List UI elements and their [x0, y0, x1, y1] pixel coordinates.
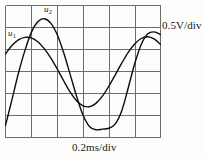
vertical-scale-label: 0.5V/div	[162, 19, 202, 31]
trace-label-u1-text: u	[8, 28, 13, 38]
trace-label-u2: u2	[44, 4, 52, 14]
trace-label-u2-subscript: 2	[49, 8, 52, 15]
graticule-grid	[6, 6, 161, 138]
horizontal-scale-label: 0.2ms/div	[72, 141, 117, 153]
trace-label-u1-subscript: 1	[13, 32, 16, 39]
trace-label-u1: u1	[8, 28, 16, 38]
trace-label-u2-text: u	[44, 4, 49, 14]
oscilloscope-screenshot: u1 u2 0.5V/div 0.2ms/div	[0, 0, 204, 158]
